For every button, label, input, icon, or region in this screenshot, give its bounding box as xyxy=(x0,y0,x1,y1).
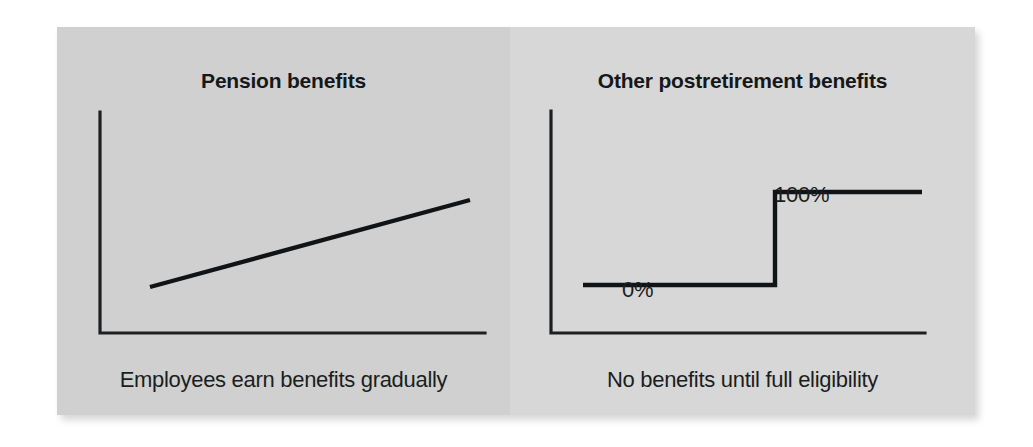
panel-title-opeb: Other postretirement benefits xyxy=(510,69,975,93)
opeb-hundred-percent-label: 100% xyxy=(774,182,829,208)
opeb-step-line xyxy=(583,192,922,285)
pension-axes xyxy=(100,112,485,333)
panel-title-pension: Pension benefits xyxy=(57,69,510,93)
opeb-zero-percent-label: 0% xyxy=(622,277,653,303)
figure-root: Pension benefits Employees earn benefits… xyxy=(0,0,1033,447)
panel-pension-benefits: Pension benefits Employees earn benefits… xyxy=(57,27,510,415)
panel-caption-opeb: No benefits until full eligibility xyxy=(510,367,975,393)
panel-caption-pension: Employees earn benefits gradually xyxy=(57,367,510,393)
opeb-axes xyxy=(551,111,925,333)
figure-card: Pension benefits Employees earn benefits… xyxy=(57,27,975,415)
pension-accrual-line xyxy=(150,200,470,287)
panel-other-postretirement-benefits: Other postretirement benefits 0% 100% No… xyxy=(510,27,975,415)
